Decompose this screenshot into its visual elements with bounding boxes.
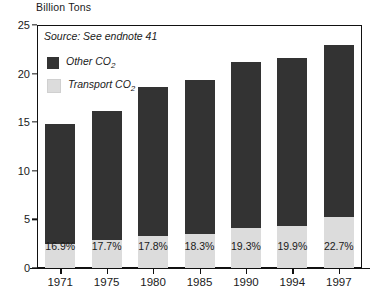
bar-segment-other-co2	[138, 87, 168, 236]
legend-swatch-other-co2	[47, 57, 59, 69]
bar-segment-other-co2	[324, 45, 354, 217]
x-tick-mark-1971	[60, 268, 61, 274]
x-tick-mark-1994	[292, 268, 293, 274]
data-label-1994: 19.9%	[277, 240, 307, 252]
y-axis-line	[37, 25, 38, 268]
data-label-1980: 17.8%	[138, 240, 168, 252]
chart-y-axis-title: Billion Tons	[36, 1, 91, 13]
legend-item-transport-co2: Transport CO2	[47, 78, 135, 93]
y-tick-mark	[32, 73, 37, 74]
x-tick-label-1975: 1975	[94, 276, 120, 288]
bar-segment-other-co2	[231, 62, 261, 228]
co2-emissions-stacked-bar-chart: Billion Tons Source: See endnote 41 Othe…	[0, 0, 375, 299]
x-tick-mark-1975	[107, 268, 108, 274]
x-tick-label-1990: 1990	[233, 276, 259, 288]
x-tick-mark-1997	[339, 268, 340, 274]
x-tick-mark-1985	[200, 268, 201, 274]
y-tick-mark	[32, 267, 37, 268]
bar-1994	[277, 58, 307, 268]
data-label-1985: 18.3%	[185, 240, 215, 252]
data-label-1990: 19.3%	[231, 240, 261, 252]
y-tick-mark	[32, 219, 37, 220]
legend-item-other-co2: Other CO2	[47, 55, 135, 70]
x-tick-label-1994: 1994	[280, 276, 306, 288]
data-label-1971: 16.9%	[45, 240, 75, 252]
x-tick-label-1997: 1997	[326, 276, 352, 288]
y-tick-mark	[32, 24, 37, 25]
bar-segment-other-co2	[45, 124, 75, 244]
bar-1997	[324, 45, 354, 268]
legend-label-transport-co2: Transport CO2	[68, 78, 135, 93]
x-tick-label-1980: 1980	[140, 276, 166, 288]
legend-label-other-co2: Other CO2	[66, 55, 115, 70]
data-label-1975: 17.7%	[92, 240, 122, 252]
x-tick-mark-1990	[246, 268, 247, 274]
bar-segment-other-co2	[92, 111, 122, 240]
bar-segment-other-co2	[185, 80, 215, 234]
legend-swatch-transport-co2	[47, 79, 61, 93]
x-tick-label-1985: 1985	[187, 276, 213, 288]
bar-1990	[231, 62, 261, 268]
x-tick-label-1971: 1971	[47, 276, 73, 288]
y-tick-mark	[32, 122, 37, 123]
data-label-1997: 22.7%	[324, 240, 354, 252]
x-tick-mark-1980	[153, 268, 154, 274]
bar-segment-other-co2	[277, 58, 307, 226]
source-note: Source: See endnote 41	[44, 30, 157, 42]
chart-legend: Other CO2 Transport CO2	[47, 55, 135, 101]
y-tick-mark	[32, 170, 37, 171]
